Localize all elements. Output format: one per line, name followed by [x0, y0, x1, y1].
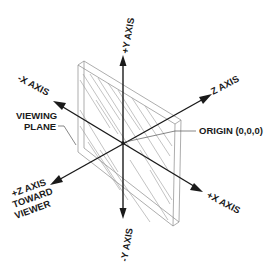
pos-y-axis-label: +Y AXIS [119, 17, 136, 55]
axes-diagram: +Y AXIS -Y AXIS -X AXIS +X AXIS Z AXIS O… [0, 0, 277, 269]
viewing-plane-label-line1: VIEWING [16, 110, 57, 121]
pos-z-arrowhead [50, 175, 63, 185]
pos-x-axis-label: +X AXIS [205, 189, 242, 216]
viewing-plane-leader [58, 126, 76, 145]
viewing-plane-label-line2: PLANE [24, 121, 56, 132]
neg-x-axis-label: -X AXIS [16, 72, 51, 98]
plane-hatching [80, 74, 172, 222]
neg-y-axis-label: -Y AXIS [118, 227, 135, 262]
origin-point [121, 141, 125, 145]
viewing-plane [78, 61, 181, 226]
neg-y-arrowhead [120, 208, 127, 219]
z-axis [50, 94, 212, 185]
y-axis [120, 55, 127, 219]
z-arrowhead [199, 94, 212, 104]
origin-label: ORIGIN (0,0,0) [199, 125, 263, 136]
pos-y-arrowhead [120, 55, 127, 66]
neg-x-arrowhead [53, 101, 66, 110]
z-axis-label: Z AXIS [209, 73, 241, 97]
